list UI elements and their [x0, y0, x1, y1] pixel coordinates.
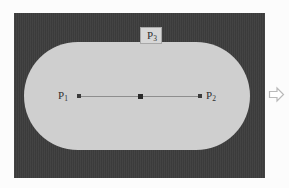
caption-remnant-text — [34, 0, 234, 7]
right-arrow-icon — [268, 85, 285, 104]
point-marker-p1 — [77, 94, 81, 98]
point-label-p1-subscript: 1 — [64, 94, 68, 103]
right-arrow-icon-svg — [268, 85, 285, 104]
point-label-p3-box: P3 — [140, 27, 162, 44]
point-label-p1: P1 — [58, 89, 68, 101]
point-label-p3: P3 — [141, 29, 163, 41]
point-label-p2-subscript: 2 — [212, 94, 216, 103]
point-label-p3-subscript: 3 — [153, 34, 157, 43]
point-marker-midpoint — [138, 94, 143, 99]
point-label-p2: P2 — [206, 89, 216, 101]
point-marker-p2 — [198, 94, 202, 98]
figure-root: P1 P2 P3 — [0, 0, 289, 188]
